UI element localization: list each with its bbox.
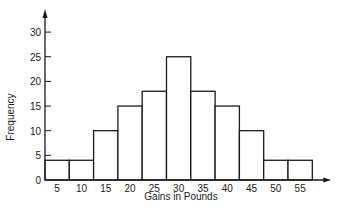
histogram-bar	[288, 160, 312, 180]
histogram-bar	[142, 91, 166, 180]
histogram-bar	[264, 160, 288, 180]
y-tick-label: 0	[35, 175, 41, 186]
x-tick-label: 15	[100, 183, 112, 194]
histogram-bar	[94, 131, 118, 180]
y-axis: 051015202530	[30, 9, 51, 186]
histogram-bar	[167, 57, 191, 180]
x-tick-label: 20	[124, 183, 136, 194]
x-tick-label: 5	[54, 183, 60, 194]
y-tick-label: 30	[30, 27, 42, 38]
histogram-bar	[215, 106, 239, 180]
y-axis-arrow-icon	[43, 9, 48, 18]
y-axis-title: Frequency	[5, 93, 16, 140]
x-tick-label: 50	[270, 183, 282, 194]
histogram-bar	[45, 160, 69, 180]
x-axis-arrow-icon	[323, 178, 331, 183]
histogram-bar	[69, 160, 93, 180]
y-tick-label: 5	[35, 150, 41, 161]
y-tick-label: 25	[30, 52, 42, 63]
histogram-bar	[191, 91, 215, 180]
histogram-chart: 051015202530 510152025303540455055 Gains…	[0, 0, 342, 216]
x-tick-label: 55	[295, 183, 307, 194]
x-tick-label: 45	[246, 183, 258, 194]
x-tick-label: 10	[76, 183, 88, 194]
y-tick-label: 20	[30, 76, 42, 87]
bars	[45, 57, 312, 180]
y-tick-label: 10	[30, 126, 42, 137]
x-tick-label: 40	[222, 183, 234, 194]
y-tick-label: 15	[30, 101, 42, 112]
histogram-bar	[239, 131, 263, 180]
x-axis-title: Gains in Pounds	[144, 191, 217, 202]
histogram-bar	[118, 106, 142, 180]
